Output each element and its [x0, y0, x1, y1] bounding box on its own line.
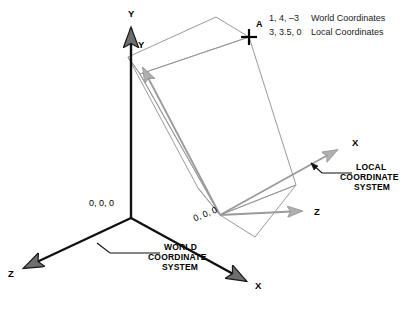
local-origin-label: 0, 0, 0 — [192, 205, 219, 224]
point-a-label: A — [256, 19, 263, 29]
world-coordinates-caption: World Coordinates — [311, 13, 386, 23]
local-z-axis — [220, 211, 302, 215]
world-y-axis-label: Y — [128, 8, 135, 19]
local-callout-line1: LOCAL — [356, 162, 386, 172]
world-callout-line1: WORLD — [164, 242, 197, 252]
world-callout-line3: SYSTEM — [162, 262, 198, 272]
local-coordinates-caption: Local Coordinates — [311, 27, 384, 37]
local-coordinates-value: 3, 3.5, 0 — [269, 27, 302, 37]
local-x-axis-label: X — [352, 137, 359, 148]
world-origin-label: 0, 0, 0 — [89, 198, 114, 208]
world-z-axis — [24, 218, 131, 268]
world-z-axis-label: Z — [8, 268, 14, 279]
coordinate-system-diagram: Y X Z 0, 0, 0 WORLD COORDINATE SYSTEM Y … — [0, 0, 420, 309]
point-a-marker — [241, 29, 257, 45]
world-x-axis-label: X — [255, 280, 262, 291]
local-axes — [143, 68, 337, 215]
local-y-axis-label: Y — [138, 39, 145, 50]
local-y-axis — [143, 68, 220, 215]
world-coordinates-value: 1, 4, –3 — [269, 13, 299, 23]
box-top-face — [128, 17, 249, 74]
local-z-axis-label: Z — [314, 206, 320, 217]
box-front-face — [140, 37, 296, 215]
local-callout-line3: SYSTEM — [354, 182, 390, 192]
world-axes — [24, 28, 246, 281]
local-callout-line2: COORDINATE — [340, 172, 399, 182]
world-callout-line2: COORDINATE — [148, 252, 207, 262]
object-wireframe — [128, 17, 296, 237]
